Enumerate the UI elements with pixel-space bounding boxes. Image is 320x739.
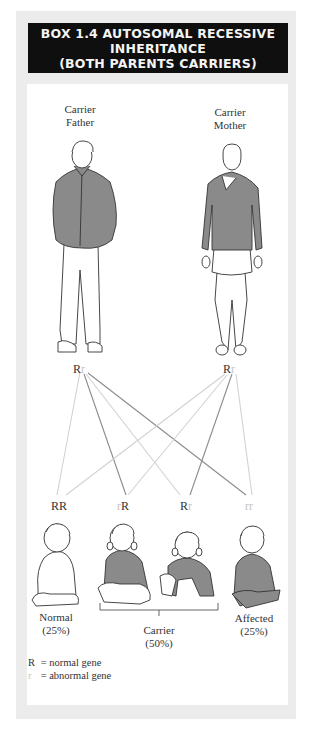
- father-figure: [53, 141, 116, 352]
- allele: R: [121, 499, 129, 513]
- allele: r: [188, 499, 192, 513]
- outcome-affected-pct: (25%): [224, 625, 284, 638]
- legend-symbol-R: R: [28, 656, 38, 669]
- legend-abnormal: r = abnormal gene: [28, 669, 111, 682]
- outcome-affected-label: Affected: [224, 612, 284, 625]
- outcome-affected: Affected (25%): [224, 612, 284, 638]
- mother-allele-r: r: [231, 362, 235, 376]
- father-allele-R: R: [73, 362, 81, 376]
- mother-genotype: Rr: [223, 362, 235, 377]
- father-genotype: Rr: [73, 362, 85, 377]
- outcome-carrier-pct: (50%): [130, 637, 188, 650]
- mother-allele-R: R: [223, 362, 231, 376]
- allele: r: [249, 499, 253, 513]
- inheritance-lines: [57, 372, 252, 495]
- child-genotype-2: rR: [117, 499, 129, 514]
- legend-desc-abnormal: = abnormal gene: [41, 670, 112, 681]
- child-normal-figure: [32, 524, 79, 606]
- allele: R: [59, 499, 67, 513]
- legend-symbol-r: r: [28, 669, 38, 682]
- legend-normal: R = normal gene: [28, 656, 111, 669]
- child-carrier-1-figure: [98, 524, 150, 604]
- mother-figure: [202, 144, 262, 355]
- child-affected-figure: [232, 526, 280, 608]
- outcome-carrier-label: Carrier: [130, 624, 188, 637]
- legend-desc-normal: = normal gene: [41, 657, 102, 668]
- outcome-normal-pct: (25%): [28, 624, 84, 637]
- outcome-normal: Normal (25%): [28, 611, 84, 637]
- outcome-normal-label: Normal: [28, 611, 84, 624]
- legend: R = normal gene r = abnormal gene: [28, 656, 111, 682]
- outcome-carrier: Carrier (50%): [130, 624, 188, 650]
- allele: R: [180, 499, 188, 513]
- child-genotype-1: RR: [51, 499, 67, 514]
- father-allele-r: r: [81, 362, 85, 376]
- child-genotype-3: Rr: [180, 499, 192, 514]
- allele: R: [51, 499, 59, 513]
- carrier-bracket: [100, 603, 218, 616]
- child-genotype-4: rr: [245, 499, 253, 514]
- child-carrier-2-figure: [160, 532, 214, 596]
